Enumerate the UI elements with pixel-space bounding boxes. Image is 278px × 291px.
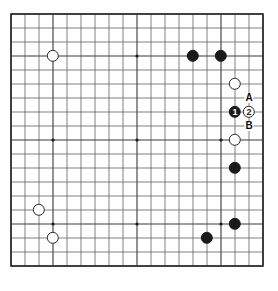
star-point bbox=[219, 54, 222, 57]
star-point bbox=[51, 222, 54, 225]
go-board-figure: 12 AB bbox=[0, 0, 278, 291]
go-board-grid[interactable] bbox=[0, 0, 278, 291]
star-point bbox=[219, 222, 222, 225]
board-background bbox=[0, 0, 278, 291]
star-point bbox=[219, 138, 222, 141]
star-point bbox=[51, 54, 54, 57]
star-point bbox=[135, 54, 138, 57]
star-point bbox=[135, 222, 138, 225]
star-point bbox=[51, 138, 54, 141]
star-point bbox=[135, 138, 138, 141]
